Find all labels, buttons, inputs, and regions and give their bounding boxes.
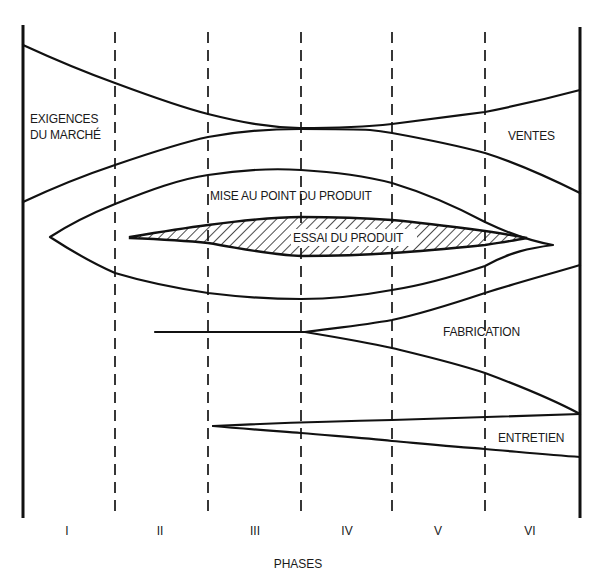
maintenance-upper-curve	[213, 414, 580, 426]
phase-label-4: IV	[341, 524, 352, 538]
sales-label: VENTES	[508, 128, 555, 144]
phase-label-1: I	[65, 524, 68, 538]
manufacturing-lower-curve	[305, 332, 580, 414]
phase-diagram	[0, 0, 598, 583]
maintenance-label: ENTRETIEN	[498, 430, 564, 446]
phases-axis-title: PHASES	[274, 557, 323, 571]
product-testing-label: ESSAI DU PRODUIT	[293, 230, 403, 246]
market-requirements-label-line1: EXIGENCES	[30, 111, 98, 127]
phase-label-3: III	[250, 524, 260, 538]
product-development-label: MISE AU POINT DU PRODUIT	[210, 188, 372, 204]
manufacturing-label: FABRICATION	[443, 324, 520, 340]
phase-label-2: II	[157, 524, 164, 538]
phase-label-5: V	[434, 524, 442, 538]
market-requirements-label-line2: DU MARCHÉ	[30, 127, 101, 143]
phase-label-6: VI	[524, 524, 535, 538]
manufacturing-upper-curve	[305, 265, 580, 332]
